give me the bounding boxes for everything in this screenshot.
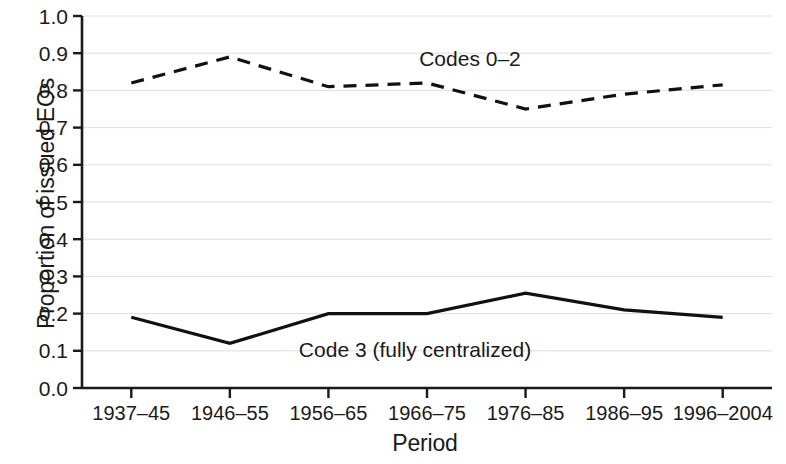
- y-tick-label: 0.0: [39, 377, 68, 400]
- x-tick-label: 1937–45: [92, 402, 170, 424]
- y-tick-label: 0.4: [39, 228, 69, 251]
- y-tick-label: 0.5: [39, 191, 68, 214]
- data-series-group: [131, 57, 722, 343]
- x-tick-label: 1966–75: [388, 402, 466, 424]
- y-tick-label: 0.1: [39, 339, 68, 362]
- x-tick-labels-group: 1937–451946–551956–651966–751976–851986–…: [92, 402, 772, 424]
- series-annotation-1: Codes 0–2: [419, 47, 521, 70]
- x-tick-label: 1986–95: [585, 402, 663, 424]
- y-tick-label: 0.6: [39, 153, 68, 176]
- series-line-2: [131, 293, 722, 343]
- plot-area: 0.00.10.20.30.40.50.60.70.80.91.0 1937–4…: [0, 0, 786, 464]
- x-tick-marks-group: [131, 388, 722, 398]
- y-tick-label: 1.0: [39, 5, 68, 28]
- series-annotation-2: Code 3 (fully centralized): [299, 338, 531, 361]
- y-tick-label: 0.2: [39, 302, 68, 325]
- x-tick-label: 1956–65: [289, 402, 367, 424]
- chart-figure: Proportion of issued EOs Period 0.00.10.…: [0, 0, 786, 464]
- x-tick-label: 1996–2004: [673, 402, 773, 424]
- y-tick-label: 0.9: [39, 42, 68, 65]
- y-tick-label: 0.7: [39, 116, 68, 139]
- y-tick-labels-group: 0.00.10.20.30.40.50.60.70.80.91.0: [39, 5, 69, 400]
- y-tick-label: 0.3: [39, 265, 68, 288]
- y-tick-label: 0.8: [39, 79, 68, 102]
- x-tick-label: 1946–55: [191, 402, 269, 424]
- y-tick-marks-group: [73, 16, 82, 388]
- x-tick-label: 1976–85: [487, 402, 565, 424]
